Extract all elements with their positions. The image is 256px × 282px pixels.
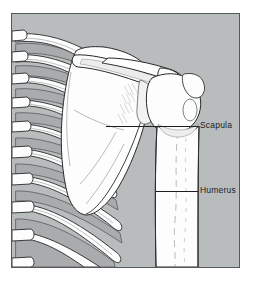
humeral-shaft <box>155 126 199 267</box>
anatomy-illustration <box>12 14 239 267</box>
label-scapula: Scapula <box>200 120 232 130</box>
figure-frame <box>11 13 240 268</box>
vertebra-6 <box>12 146 32 158</box>
anatomy-figure: Scapula Humerus <box>0 0 256 282</box>
humeral-head-fossa <box>183 99 197 121</box>
vertebra-3 <box>12 73 29 84</box>
vertebra-4 <box>12 97 30 108</box>
vertebra-8 <box>12 201 34 213</box>
vertebra-5 <box>12 121 31 132</box>
vertebra-10 <box>12 257 34 267</box>
vertebra-7 <box>12 173 33 185</box>
vertebra-1 <box>12 30 27 41</box>
vertebra-9 <box>12 229 34 241</box>
label-humerus: Humerus <box>200 185 236 195</box>
vertebra-2 <box>12 51 28 62</box>
